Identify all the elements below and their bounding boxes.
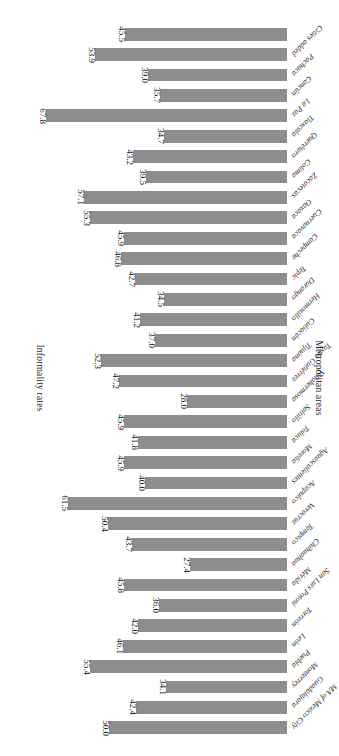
bar-value-label: 46.8 (113, 251, 123, 267)
bar-row: 45.9Saltillo (38, 412, 287, 432)
bar-row: 41.2Hermosillo (38, 310, 287, 330)
bar-value-label: 34.5 (156, 292, 166, 308)
bar (46, 109, 287, 122)
bar-value-label: 28.0 (179, 394, 189, 410)
bar-row: 39.5Colima (38, 167, 287, 187)
bar (109, 721, 287, 734)
bar-row: 46.1León (38, 636, 287, 656)
bar-value-label: 52.3 (93, 353, 103, 369)
bar-value-label: 53.9 (87, 47, 97, 63)
bar-row: 37.0Culiacán (38, 330, 287, 350)
bar-row: 43.7Tampico (38, 534, 287, 554)
bar (138, 619, 287, 632)
bar-value-label: 45.9 (116, 230, 126, 246)
bar-value-label: 45.5 (117, 26, 127, 42)
bar-value-label: 34.7 (156, 128, 166, 144)
bar (187, 395, 287, 408)
bar (90, 660, 287, 673)
bar-value-label: 55.4 (82, 659, 92, 675)
bar-row: 36.0San Luis Potosí (38, 595, 287, 615)
bar-row: 45.5 (38, 24, 287, 44)
bar-value-label: 50.0 (101, 720, 111, 736)
bar (159, 599, 287, 612)
bar-row: 34.1Monterrey (38, 677, 287, 697)
bar (68, 497, 287, 510)
bar-value-label: 34.1 (158, 679, 168, 695)
bar-row: 41.8Toluca (38, 432, 287, 452)
bar (101, 354, 287, 367)
bar-row: 67.8La Paz (38, 106, 287, 126)
bar-value-label: 39.5 (139, 169, 149, 185)
bar-value-label: 41.8 (130, 434, 140, 450)
bar-row: 50.0MA of Mexico City (38, 718, 287, 738)
category-label: Cancún (290, 75, 314, 99)
bar-value-label: 47.2 (111, 373, 121, 389)
bar (123, 640, 287, 653)
bar (125, 28, 287, 41)
bar (124, 415, 287, 428)
bar-row: 61.5Acapulco (38, 493, 287, 513)
bar (147, 171, 288, 184)
bar (119, 375, 287, 388)
bar-value-label: 61.5 (60, 496, 70, 512)
bar-row: 57.1Zacatecas (38, 187, 287, 207)
bar-value-label: 42.7 (127, 271, 137, 287)
bar (135, 273, 287, 286)
plot-area: 50.0MA of Mexico City42.4Guadalajara34.1… (38, 24, 287, 738)
bar-row: 34.5Durango (38, 289, 287, 309)
bar (140, 313, 287, 326)
bar-row: 42.7Tepic (38, 269, 287, 289)
bar-value-label: 57.1 (76, 190, 86, 206)
bar (164, 293, 287, 306)
bar (124, 232, 287, 245)
bar (145, 477, 287, 490)
bar-value-label: 50.4 (100, 516, 110, 532)
bar-row: 53.9Cities added (38, 44, 287, 64)
bar-row: 27.4Chihuahua (38, 554, 287, 574)
bar (121, 252, 287, 265)
bar-value-label: 41.2 (132, 312, 142, 328)
bar-value-label: 45.8 (116, 577, 126, 593)
bar (84, 191, 287, 204)
bar-row: 55.3Oaxaca (38, 208, 287, 228)
bar (160, 89, 287, 102)
bar-row: 46.8Campeche (38, 248, 287, 268)
bar-value-label: 46.1 (115, 638, 125, 654)
bar-value-label: 42.4 (128, 700, 138, 716)
bar-value-label: 39.0 (140, 67, 150, 83)
bar (166, 681, 287, 694)
bar-value-label: 43.2 (125, 149, 135, 165)
bar-row: 43.2Querétaro (38, 146, 287, 166)
bar-value-label: 45.9 (116, 455, 126, 471)
bar-row: 28.0Villahermosa (38, 391, 287, 411)
bar-row: 42.0Torreón (38, 616, 287, 636)
bar-value-label: 37.0 (147, 332, 157, 348)
bar (132, 538, 287, 551)
bar-row: 50.4Veracruz (38, 514, 287, 534)
bar-value-label: 45.9 (116, 414, 126, 430)
bar-value-label: 35.7 (152, 88, 162, 104)
bar-value-label: 40.0 (137, 475, 147, 491)
category-label: Torreón (290, 605, 314, 629)
bar-row: 45.8Mérida (38, 575, 287, 595)
bar-value-label: 43.7 (124, 536, 134, 552)
bar (90, 211, 287, 224)
bar-value-label: 67.8 (38, 108, 48, 124)
bar-value-label: 55.3 (82, 210, 92, 226)
bar (136, 701, 287, 714)
bar (148, 69, 287, 82)
bar-row: 47.2Tuxtla Gutiérrez (38, 371, 287, 391)
bar-row: 45.9Cuernavaca (38, 228, 287, 248)
bar-row: 40.0Aguascalientes (38, 473, 287, 493)
bar (164, 130, 287, 143)
category-label: León (290, 632, 308, 650)
bar (124, 579, 287, 592)
bar-row: 39.0Pachuca (38, 65, 287, 85)
bar-value-label: 27.4 (182, 557, 192, 573)
bar-row: 52.3Tijuana (38, 350, 287, 370)
bar (95, 48, 287, 61)
bar (124, 456, 287, 469)
bar-row: 42.4Guadalajara (38, 697, 287, 717)
bar (133, 150, 287, 163)
